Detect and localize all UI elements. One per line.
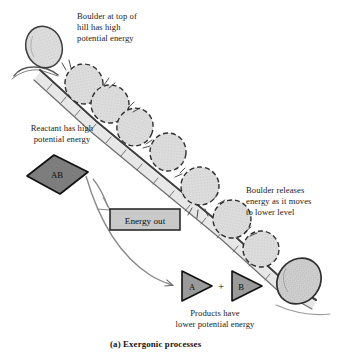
annotation-products: Products have lower potential energy <box>152 308 278 330</box>
product-b-label: B <box>238 282 244 292</box>
boulder-at-rest-top <box>20 21 67 72</box>
product-node-b[interactable]: B <box>232 271 262 301</box>
reactant-node-ab[interactable]: AB <box>27 155 88 194</box>
boulder-at-rest-bottom <box>268 249 331 313</box>
energy-out-label: Energy out <box>125 216 166 226</box>
annotation-boulder-top: Boulder at top of hill has high potentia… <box>77 11 137 44</box>
plus-sign: + <box>218 280 224 292</box>
annotation-reactant: Reactant has high potential energy <box>7 123 117 145</box>
product-a-label: A <box>189 282 196 292</box>
annotation-boulder-releases-energy: Boulder releases energy as it moves to l… <box>246 185 311 218</box>
figure-caption: (a) Exergonic processes <box>110 339 201 349</box>
energy-out-box[interactable]: Energy out <box>110 209 180 230</box>
product-node-a[interactable]: A <box>182 271 212 301</box>
boulder-rolling <box>148 132 187 173</box>
exergonic-process-figure: AB Energy out A + B Boulder at top of hi… <box>0 0 346 363</box>
reactant-node-label: AB <box>51 170 63 180</box>
